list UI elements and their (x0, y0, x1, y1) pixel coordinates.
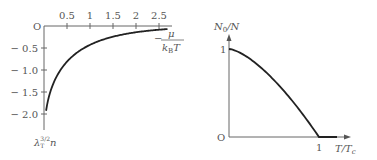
left-x-tick-label: 1 (87, 10, 93, 21)
left-y-tick-label: − 2.0 (11, 109, 38, 120)
right-origin-label: O (217, 132, 225, 143)
left-xlabel-denominator: kBT (162, 42, 181, 55)
right-y-axis-arrow (227, 34, 232, 41)
right-ytick-label-1: 1 (220, 44, 226, 55)
left-y-tick-label: − 1.5 (11, 87, 38, 98)
left-x-tick-label: 2.5 (151, 10, 167, 21)
left-x-axis-label: − μ kBT (154, 28, 184, 55)
right-series-line (229, 49, 337, 137)
left-series-line (46, 29, 167, 111)
right-xtick-label-1: 1 (316, 142, 322, 153)
left-y-axis-label: λT3/2n (33, 135, 56, 149)
right-y-axis-label: N0/N (213, 21, 241, 34)
left-xlabel-numerator: μ (168, 28, 175, 39)
figure: O 0.511.522.5 − 0.5− 1.0− 1.5− 2.0 − μ k… (0, 0, 377, 160)
left-origin-label: O (33, 21, 41, 32)
right-chart: O 1 1 T/Tc N0/N (213, 21, 356, 156)
left-x-tick-label: 2 (133, 10, 139, 21)
left-y-tick-label: − 0.5 (11, 43, 38, 54)
left-y-ticks: − 0.5− 1.0− 1.5− 2.0 (11, 43, 47, 120)
left-y-tick-label: − 1.0 (11, 65, 38, 76)
left-chart: O 0.511.522.5 − 0.5− 1.0− 1.5− 2.0 − μ k… (11, 10, 184, 149)
right-x-axis-label: T/Tc (335, 143, 356, 156)
left-x-tick-label: 0.5 (59, 10, 75, 21)
right-x-axis-arrow (344, 135, 351, 140)
left-x-tick-label: 1.5 (105, 10, 121, 21)
